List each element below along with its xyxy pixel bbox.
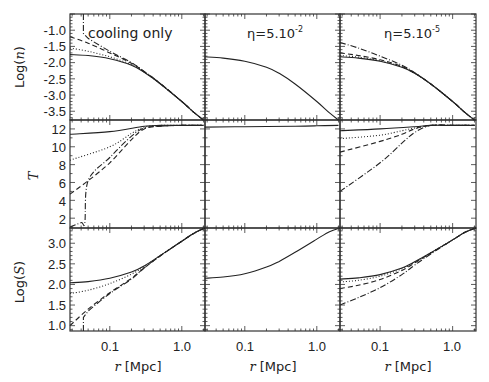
xlabel-unit: [Mpc] <box>391 359 432 374</box>
ylabel-log-s: Log(S) <box>12 261 27 303</box>
ytick-label: 2.0 <box>48 277 66 292</box>
tick-layer <box>70 14 476 331</box>
xtick-label: 1.0 <box>443 339 461 354</box>
ylabel-part: ) <box>12 46 27 51</box>
ytick-label: 6 <box>59 176 66 191</box>
curve-dotted <box>340 228 476 282</box>
panel-frame <box>205 120 340 228</box>
ytick-label: 2.5 <box>48 257 66 272</box>
ytick-label: 2 <box>59 212 66 227</box>
curve-dotted <box>340 56 475 121</box>
xlabel: r [Mpc] <box>114 359 161 374</box>
panel-title-eta-5e-2: η=5.10-2 <box>247 25 303 41</box>
ylabel-var: S <box>12 266 27 275</box>
panel-frame <box>70 228 205 331</box>
yticks-temperature: 12 10 8 6 4 2 <box>52 122 66 227</box>
eta-text: η=5.10 <box>247 26 295 41</box>
ytick-label: -2.5 <box>44 72 66 87</box>
ylabel-log-n: Log(n) <box>12 46 27 88</box>
xlabel: r [Mpc] <box>384 359 431 374</box>
curve-solid <box>205 228 340 278</box>
curve-solid <box>205 57 339 120</box>
curve-dashed <box>70 125 204 194</box>
yticks-log-n: -1.0 -1.5 -2.0 -2.5 -3.0 -3.5 <box>44 23 66 119</box>
ytick-label: 1.0 <box>48 318 66 333</box>
curve-dash-dot <box>70 125 204 227</box>
xtick-label: 0.1 <box>101 339 119 354</box>
ytick-label: 4 <box>59 194 66 209</box>
panel-grid <box>70 14 476 331</box>
curve-solid <box>340 125 475 130</box>
panel-title-eta-5e-5: η=5.10-5 <box>384 25 440 41</box>
panel-frame <box>205 228 340 331</box>
ytick-label: 1.5 <box>48 298 66 313</box>
curve-dash-dot <box>340 228 476 305</box>
ytick-label: -3.0 <box>44 88 66 103</box>
curve-dotted <box>70 125 204 160</box>
eta-exponent: -5 <box>432 25 440 34</box>
xtick-label: 1.0 <box>308 339 326 354</box>
panel-frame <box>340 120 476 228</box>
curve-dashed <box>340 53 475 120</box>
curve-dashed <box>70 228 205 326</box>
ytick-label: -1.0 <box>44 23 66 38</box>
ytick-label: 8 <box>59 158 66 173</box>
xlabel: r [Mpc] <box>249 359 296 374</box>
eta-text: η=5.10 <box>384 26 432 41</box>
xlabel-unit: [Mpc] <box>121 359 162 374</box>
xticks: 0.1 1.0 0.1 1.0 0.1 1.0 <box>101 339 461 354</box>
ytick-label: 3.0 <box>48 236 66 251</box>
ytick-label: 12 <box>52 122 66 137</box>
curve-dash-dot <box>340 43 475 121</box>
panel-title-cooling-only: cooling only <box>88 25 172 41</box>
ytick-label: 10 <box>52 140 66 155</box>
curve-solid <box>340 57 475 120</box>
panel-frame <box>340 228 476 331</box>
yticks-log-s: 3.0 2.5 2.0 1.5 1.0 <box>48 236 66 333</box>
ylabel-temperature: T <box>26 170 41 180</box>
xtick-label: 0.1 <box>371 339 389 354</box>
panel-frame <box>70 120 205 228</box>
eta-exponent: -2 <box>295 25 303 34</box>
curve-solid <box>70 55 204 121</box>
ytick-label: -1.5 <box>44 39 66 54</box>
curve-dash-dot <box>340 125 475 192</box>
ytick-label: -2.0 <box>44 55 66 70</box>
xlabels: r [Mpc] r [Mpc] r [Mpc] <box>114 359 431 374</box>
ylabel-part: ) <box>12 261 27 266</box>
curve-solid <box>70 125 204 134</box>
curve-solid <box>340 228 476 279</box>
ytick-label: -3.5 <box>44 104 66 119</box>
curve-dotted <box>70 228 205 294</box>
figure-3x3-profiles: cooling only η=5.10-2 η=5.10-5 -1.0 -1.5… <box>0 0 489 382</box>
curve-solid <box>205 125 339 127</box>
xlabel-unit: [Mpc] <box>256 359 297 374</box>
ylabel-part: Log( <box>12 60 27 88</box>
xtick-label: 0.1 <box>236 339 254 354</box>
curve-dotted <box>70 48 204 120</box>
xtick-label: 1.0 <box>173 339 191 354</box>
ylabel-part: Log( <box>12 275 27 303</box>
ylabel-var: n <box>12 51 27 59</box>
curve-dashed <box>340 228 476 289</box>
curve-layer <box>70 14 476 331</box>
curve-dashed <box>70 37 204 120</box>
